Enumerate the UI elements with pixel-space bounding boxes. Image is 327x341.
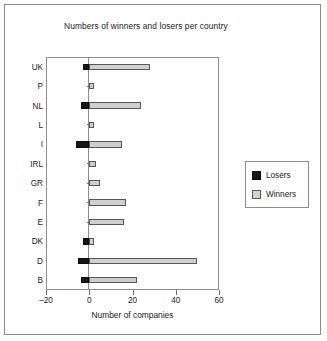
- x-axis-tick-mark: [46, 290, 47, 295]
- x-axis-tick-mark: [219, 290, 220, 295]
- bar-winners-p: [89, 83, 93, 89]
- x-axis-tick-mark: [176, 290, 177, 295]
- legend-label-losers: Losers: [266, 171, 291, 180]
- bar-winners-e: [89, 219, 124, 225]
- x-axis-tick-label: 40: [171, 296, 180, 305]
- bar-losers-b: [81, 277, 90, 283]
- legend-label-winners: Winners: [266, 190, 296, 199]
- bar-winners-dk: [89, 238, 93, 244]
- x-axis-tick-label: 20: [128, 296, 137, 305]
- legend-entry-winners: Winners: [252, 187, 296, 201]
- x-axis-tick-mark: [133, 290, 134, 295]
- bar-losers-nl: [81, 102, 90, 108]
- bar-winners-gr: [89, 180, 100, 186]
- bar-losers-d: [78, 258, 89, 264]
- bar-winners-uk: [89, 64, 150, 70]
- legend-swatch-winners-icon: [252, 190, 261, 199]
- bar-losers-dk: [83, 238, 89, 244]
- x-axis-tick-mark: [89, 290, 90, 295]
- chart-legend: Losers Winners: [245, 161, 309, 208]
- bar-winners-nl: [89, 102, 141, 108]
- bar-winners-i: [89, 141, 121, 147]
- legend-entry-losers: Losers: [252, 168, 291, 182]
- bar-losers-i: [76, 141, 89, 147]
- chart-title: Numbers of winners and losers per countr…: [5, 21, 287, 31]
- legend-swatch-losers-icon: [252, 171, 261, 180]
- bar-losers-uk: [83, 64, 89, 70]
- x-axis-tick-label: 0: [87, 296, 92, 305]
- bar-winners-d: [89, 258, 197, 264]
- x-axis-ticks: –200204060: [5, 290, 322, 296]
- chart-figure: Numbers of winners and losers per countr…: [4, 4, 321, 335]
- bar-winners-f: [89, 199, 126, 205]
- x-axis-title: Number of companies: [46, 310, 219, 320]
- x-axis-tick-label: –20: [39, 296, 53, 305]
- bar-winners-l: [89, 122, 93, 128]
- bar-winners-b: [89, 277, 137, 283]
- bar-winners-irl: [89, 161, 95, 167]
- x-axis-tick-label: 60: [214, 296, 223, 305]
